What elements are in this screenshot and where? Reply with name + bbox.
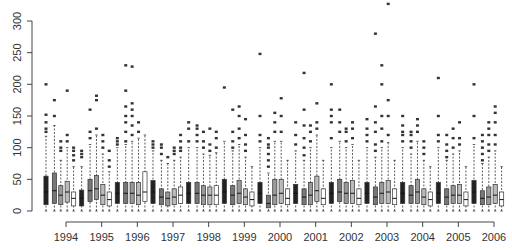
outlier-point	[380, 64, 383, 66]
x-tick-label: 2004	[410, 231, 434, 243]
box	[321, 189, 325, 205]
outlier-point	[410, 134, 413, 136]
outlier-point	[338, 108, 341, 110]
outlier-point	[416, 118, 419, 120]
outlier-point	[280, 131, 283, 133]
outlier-point	[487, 121, 490, 123]
outlier-point	[196, 124, 199, 126]
outlier-point	[267, 165, 270, 167]
outlier-point	[351, 137, 354, 139]
outlier-point	[452, 137, 455, 139]
box	[294, 184, 298, 203]
outlier-point	[380, 127, 383, 129]
box	[222, 179, 226, 203]
outlier-point	[494, 134, 497, 136]
outlier-point	[309, 140, 312, 142]
outlier-point	[53, 99, 56, 101]
outlier-point	[410, 146, 413, 148]
outlier-point	[45, 121, 48, 123]
outlier-point	[231, 108, 234, 110]
outlier-point	[215, 146, 218, 148]
outlier-point	[95, 99, 98, 101]
outlier-point	[374, 131, 377, 133]
outlier-point	[494, 105, 497, 107]
y-tick-label: 250	[11, 43, 23, 61]
outlier-point	[410, 140, 413, 142]
outlier-point	[374, 150, 377, 152]
outlier-point	[202, 131, 205, 133]
outlier-point	[267, 159, 270, 161]
box	[237, 181, 241, 204]
outlier-point	[45, 114, 48, 116]
box	[107, 192, 111, 206]
outlier-point	[131, 102, 134, 104]
outlier-point	[437, 77, 440, 79]
outlier-point	[437, 134, 440, 136]
box	[338, 179, 342, 201]
outlier-point	[294, 121, 297, 123]
outlier-point	[152, 143, 155, 145]
box	[94, 176, 98, 200]
outlier-point	[173, 153, 176, 155]
box	[393, 189, 397, 205]
outlier-point	[89, 131, 92, 133]
outlier-point	[45, 83, 48, 85]
y-axis: 050100150200250300	[11, 12, 32, 214]
outlier-point	[416, 124, 419, 126]
outlier-point	[137, 121, 140, 123]
outlier-point	[401, 124, 404, 126]
outlier-point	[374, 32, 377, 34]
outlier-point	[366, 134, 369, 136]
outlier-point	[380, 115, 383, 117]
box	[500, 192, 504, 206]
box-group-2004	[401, 115, 433, 211]
outlier-point	[80, 153, 83, 155]
box-group-2003	[365, 3, 397, 211]
outlier-point	[244, 143, 247, 145]
outlier-point	[437, 115, 440, 117]
box	[409, 186, 413, 204]
box	[487, 187, 491, 205]
outlier-point	[95, 127, 98, 129]
x-axis: 1994199519961997199819992000200120022003…	[54, 222, 506, 243]
outlier-point	[280, 97, 283, 99]
outlier-point	[89, 108, 92, 110]
outlier-point	[473, 83, 476, 85]
outlier-point	[231, 146, 234, 148]
outlier-point	[95, 95, 98, 97]
outlier-point	[481, 146, 484, 148]
plot-area	[44, 3, 504, 211]
box	[101, 184, 105, 204]
outlier-point	[137, 131, 140, 133]
box-plot-chart: 050100150200250300 199419951996199719981…	[0, 0, 512, 250]
outlier-point	[481, 140, 484, 142]
outlier-point	[330, 108, 333, 110]
outlier-point	[208, 127, 211, 129]
outlier-point	[215, 131, 218, 133]
outlier-point	[387, 134, 390, 136]
box	[451, 186, 455, 204]
x-tick-label: 1995	[89, 231, 113, 243]
box-group-1999	[222, 86, 254, 211]
outlier-point	[452, 127, 455, 129]
box-group-2005	[436, 77, 468, 211]
outlier-point	[259, 53, 262, 55]
outlier-point	[303, 137, 306, 139]
box	[279, 179, 283, 203]
outlier-point	[494, 143, 497, 145]
outlier-point	[66, 140, 69, 142]
outlier-point	[487, 134, 490, 136]
outlier-point	[487, 150, 490, 152]
outlier-point	[494, 121, 497, 123]
box	[350, 181, 354, 204]
outlier-point	[458, 137, 461, 139]
outlier-point	[131, 65, 134, 67]
outlier-point	[238, 115, 241, 117]
box-group-1994	[44, 83, 76, 211]
x-tick-label: 2003	[375, 231, 399, 243]
outlier-point	[101, 134, 104, 136]
box-group-2000	[258, 53, 290, 211]
outlier-point	[45, 131, 48, 133]
box	[143, 172, 147, 202]
outlier-point	[259, 140, 262, 142]
